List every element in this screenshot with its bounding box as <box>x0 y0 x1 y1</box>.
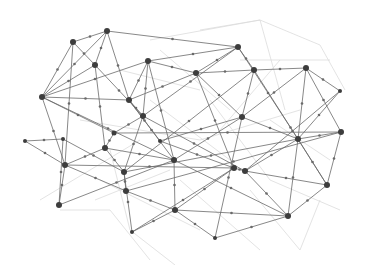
junction-dot <box>210 154 213 157</box>
junction-dot <box>247 92 250 95</box>
faint-edge <box>150 100 230 160</box>
node-A <box>104 28 110 34</box>
junction-dot <box>160 109 163 112</box>
node-T <box>338 129 344 135</box>
junction-dot <box>61 184 64 187</box>
faint-edge <box>95 170 170 200</box>
junction-dot <box>192 53 195 56</box>
node-M <box>102 145 108 151</box>
node-K <box>140 113 146 119</box>
junction-dot <box>306 199 309 202</box>
node-B <box>70 39 76 45</box>
junction-dot <box>107 127 110 130</box>
junction-dot <box>68 102 71 105</box>
junction-dot <box>118 89 121 92</box>
node-Z <box>172 207 178 213</box>
junction-dot <box>250 226 253 229</box>
node-AA <box>213 236 217 240</box>
junction-dot <box>43 139 46 142</box>
node-I <box>303 65 309 71</box>
junction-dot <box>127 123 130 126</box>
node-P <box>121 169 127 175</box>
node-J <box>126 97 132 103</box>
junction-dot <box>200 128 203 131</box>
node-O <box>56 202 62 208</box>
junction-dot <box>115 181 118 184</box>
junction-dot <box>214 119 217 122</box>
junction-dot <box>171 66 174 69</box>
node-FF <box>158 139 162 143</box>
junction-dot <box>108 139 111 142</box>
faint-edge <box>320 45 345 90</box>
junction-dot <box>149 199 152 202</box>
junction-dot <box>289 126 292 129</box>
faint-edge <box>200 20 260 30</box>
junction-dot <box>226 131 229 134</box>
junction-dot <box>203 188 206 191</box>
junction-dot <box>94 177 97 180</box>
junction-dot <box>238 168 241 171</box>
edge-layer <box>25 31 341 238</box>
junction-dot <box>182 199 185 202</box>
node-S <box>239 114 245 120</box>
junction-dot <box>230 187 233 190</box>
junction-dot <box>161 85 164 88</box>
junction-dot <box>322 99 325 102</box>
node-G <box>193 70 199 76</box>
junction-dot <box>230 212 233 215</box>
junction-dot <box>207 137 210 140</box>
junction-dot <box>188 120 191 123</box>
node-DD <box>338 89 342 93</box>
junction-dot <box>137 79 140 82</box>
junction-dot <box>279 68 282 71</box>
node-D <box>39 94 45 100</box>
junction-dot <box>132 143 135 146</box>
junction-dot <box>92 154 95 157</box>
junction-dot <box>144 87 147 90</box>
junction-dot <box>84 155 87 158</box>
junction-dot <box>100 47 103 50</box>
junction-dot <box>189 80 192 83</box>
junction-dot <box>73 63 76 66</box>
junction-dot <box>227 176 230 179</box>
junction-dot <box>193 142 196 145</box>
junction-dot <box>194 223 197 226</box>
node-N <box>62 162 68 168</box>
junction-dot <box>83 52 86 55</box>
node-EE <box>61 137 65 141</box>
node-W <box>242 168 248 174</box>
node-X <box>324 182 330 188</box>
junction-dot <box>67 80 70 83</box>
junction-dot <box>56 68 59 71</box>
junction-dot <box>84 97 87 100</box>
junction-dot <box>216 59 219 62</box>
junction-dot <box>60 171 63 174</box>
junction-dot <box>292 176 295 179</box>
network-canvas <box>0 0 367 265</box>
junction-dot <box>265 192 268 195</box>
node-V <box>231 165 237 171</box>
node-CC <box>23 139 27 143</box>
junction-dot <box>224 70 227 73</box>
junction-dot <box>333 157 336 160</box>
junction-dot <box>301 102 304 105</box>
junction-dot <box>138 153 141 156</box>
junction-dot <box>127 201 130 204</box>
junction-dot <box>218 94 221 97</box>
junction-dot <box>311 161 314 164</box>
junction-dot <box>273 91 276 94</box>
node-C <box>92 62 98 68</box>
junction-dot <box>89 35 92 38</box>
node-Y <box>285 213 291 219</box>
faint-edge <box>260 20 320 45</box>
junction-dot <box>270 154 273 157</box>
junction-dot <box>113 159 116 162</box>
node-U <box>295 136 301 142</box>
junction-dot <box>318 114 321 117</box>
node-H <box>251 67 257 73</box>
node-BB <box>130 230 134 234</box>
junction-dot <box>171 38 174 41</box>
junction-dot <box>173 184 176 187</box>
faint-edge <box>120 70 200 90</box>
junction-dot <box>99 105 102 108</box>
